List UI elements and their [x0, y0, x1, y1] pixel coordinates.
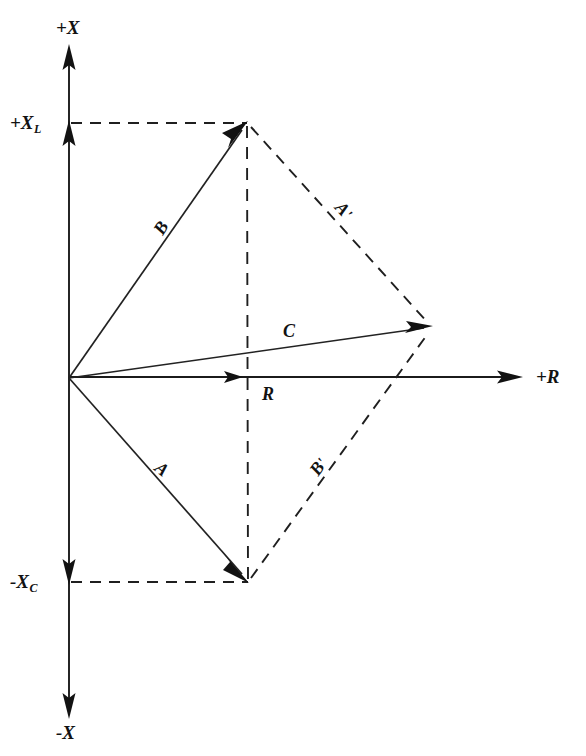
dashed-vector-group	[251, 127, 429, 578]
axis-label-positive-x: +X	[56, 18, 80, 37]
vector-c-arrowhead-icon	[405, 321, 433, 333]
solid-vector-group	[69, 121, 433, 583]
axis-label-positive-r: +R	[536, 367, 560, 386]
vector-label-r: R	[262, 385, 274, 403]
vector-b-line	[69, 130, 242, 378]
vector-a-arrowhead-icon	[223, 554, 249, 583]
vector-c-line	[69, 328, 424, 378]
vector-a-prime-line	[251, 127, 428, 323]
tick-label-inductive-reactance: +XL	[10, 113, 41, 132]
vector-b-prime-line	[251, 332, 429, 578]
diagram-canvas	[0, 0, 586, 756]
construction-line-group	[71, 123, 248, 582]
tick-label-capacitive-reactance: -XC	[10, 572, 37, 591]
vector-b-arrowhead-icon	[222, 121, 248, 148]
axis-label-negative-x: -X	[56, 723, 75, 742]
axis-group	[63, 44, 524, 719]
vector-diagram-figure: +X -X +R +XL -XC B A C R A' B'	[0, 0, 586, 756]
vector-label-c: C	[283, 322, 295, 340]
